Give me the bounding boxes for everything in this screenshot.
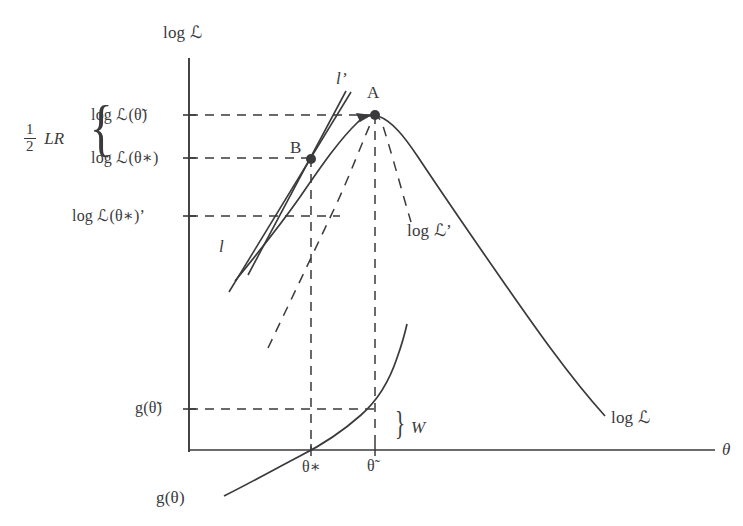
figure-canvas: log ℒ θ 1 2 LR { log ℒ(θ̃) log ℒ(θ∗) log…: [0, 0, 743, 526]
line-label-l-prime: l’: [336, 70, 347, 87]
one-half-fraction: 1 2: [24, 122, 36, 155]
w-curly-brace: }: [395, 406, 405, 440]
half-lr-label: 1 2 LR: [24, 122, 64, 155]
w-label: W: [411, 419, 425, 436]
y-tick-label-g-theta-tilde: g(θ̃): [135, 400, 162, 416]
lr-text: LR: [44, 129, 64, 148]
fraction-denominator: 2: [24, 138, 36, 155]
y-axis-title: log ℒ: [163, 24, 202, 41]
line-l-prime: [248, 91, 346, 275]
plot-svg: [0, 0, 743, 526]
y-tick-label-log-L-star: log ℒ(θ∗): [91, 150, 158, 166]
y-tick-label-log-L-star-prime: log ℒ(θ∗)’: [72, 208, 145, 224]
x-tick-label-theta-star: θ∗: [302, 459, 321, 475]
x-tick-label-theta-tilde: θ̃: [367, 458, 375, 474]
fraction-numerator: 1: [24, 122, 36, 138]
point-B-dot: [306, 154, 316, 164]
point-A-dot: [370, 110, 380, 120]
y-tick-label-log-L-tilde: log ℒ(θ̃): [91, 107, 147, 123]
line-label-l: l: [219, 238, 224, 255]
line-l: [229, 92, 351, 292]
point-label-B: B: [290, 139, 302, 156]
curve-label-log-L-prime: log ℒ’: [407, 222, 452, 239]
curve-log-L: [235, 115, 605, 416]
curve-label-log-L: log ℒ: [611, 409, 650, 426]
x-axis-title: θ: [722, 441, 731, 458]
curve-label-g-theta: g(θ): [156, 489, 185, 506]
point-label-A: A: [367, 84, 379, 101]
